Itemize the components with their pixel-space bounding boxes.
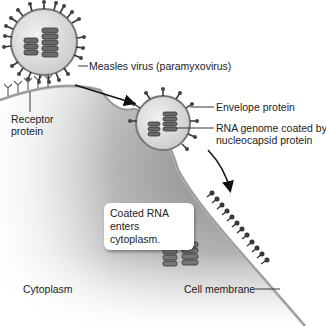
diagram-graphic xyxy=(0,0,326,326)
label-receptor-line1: Receptor xyxy=(11,113,54,125)
callout-line1: Coated RNA xyxy=(110,207,188,220)
label-rna-genome-line2: nucleocapsid protein xyxy=(216,134,312,146)
callout-line2: enters cytoplasm. xyxy=(110,220,188,246)
callout-coated-rna: Coated RNA enters cytoplasm. xyxy=(104,203,194,250)
label-receptor-line2: protein xyxy=(11,125,43,137)
label-cytoplasm: Cytoplasm xyxy=(23,283,73,295)
label-measles-virus: Measles virus (paramyxovirus) xyxy=(89,60,231,72)
label-rna-genome-line1: RNA genome coated by xyxy=(216,122,326,134)
label-envelope-protein: Envelope protein xyxy=(216,101,295,113)
measles-virus-particle xyxy=(2,0,86,84)
label-cell-membrane: Cell membrane xyxy=(184,283,255,295)
measles-entry-diagram: Measles virus (paramyxovirus) Receptor p… xyxy=(0,0,326,326)
